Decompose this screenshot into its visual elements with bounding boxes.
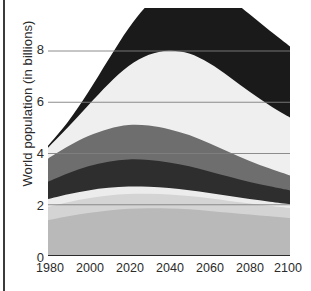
x-tick-2080: 2080 <box>236 262 264 275</box>
x-axis-tick-labels: 1980 2000 2020 2040 2060 2080 2100 <box>48 262 290 280</box>
x-tick-2100: 2100 <box>274 262 302 275</box>
y-tick-2: 2 <box>18 199 44 212</box>
plot-area <box>48 8 290 256</box>
figure-left-border <box>3 0 5 291</box>
stacked-area-chart <box>48 8 290 256</box>
x-tick-2020: 2020 <box>116 262 144 275</box>
x-tick-2060: 2060 <box>196 262 224 275</box>
x-tick-2000: 2000 <box>76 262 104 275</box>
chart-figure: World population (in billions) 0 2 4 6 8… <box>0 0 311 291</box>
area-band-group <box>48 8 290 256</box>
x-tick-1980: 1980 <box>36 262 64 275</box>
area-band-band-1-light-gray <box>48 208 290 256</box>
x-tick-2040: 2040 <box>156 262 184 275</box>
y-tick-8: 8 <box>18 43 44 56</box>
y-tick-6: 6 <box>18 95 44 108</box>
y-tick-4: 4 <box>18 147 44 160</box>
y-axis-tick-labels: 0 2 4 6 8 <box>18 8 44 256</box>
